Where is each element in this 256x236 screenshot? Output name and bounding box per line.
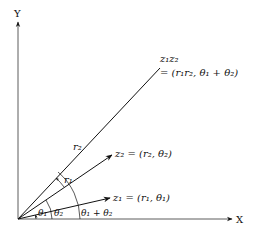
complex-multiplication-diagram: X Y z₁z₂ = (r₁r₂, θ₁ + θ₂) z₂ = (r₂, θ₂)…: [0, 0, 256, 236]
r1-rotation-arc: [56, 178, 64, 187]
r2-label: r₂: [73, 141, 82, 152]
y-axis-label: Y: [13, 8, 21, 19]
theta2-label: θ₂: [54, 208, 63, 218]
product-label-line1: z₁z₂: [159, 53, 179, 64]
product-label-line2: = (r₁r₂, θ₁ + θ₂): [160, 67, 238, 78]
theta-sum-label: θ₁ + θ₂: [81, 208, 113, 218]
z2-label: z₂ = (r₂, θ₂): [114, 148, 172, 159]
theta1-label: θ₁: [38, 208, 47, 218]
x-axis-label: X: [236, 214, 244, 225]
z1-label: z₁ = (r₁, θ₁): [112, 192, 170, 203]
